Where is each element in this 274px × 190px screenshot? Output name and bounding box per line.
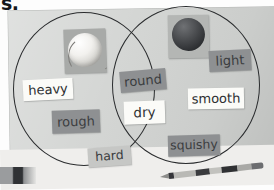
screenshot-root: s. heavy rough hard round dry light smoo… — [0, 0, 274, 190]
baseball-icon — [67, 32, 102, 67]
word-card-dry[interactable]: dry — [124, 100, 166, 124]
desk-edge — [0, 167, 36, 184]
word-card-round[interactable]: round — [119, 68, 167, 93]
dark-ball-icon — [172, 18, 206, 52]
word-card-hard[interactable]: hard — [87, 146, 131, 168]
word-card-squishy[interactable]: squishy — [168, 134, 221, 156]
word-card-rough[interactable]: rough — [52, 109, 101, 134]
picture-card-dark-ball[interactable] — [168, 15, 210, 59]
picture-card-baseball[interactable] — [63, 28, 107, 73]
word-card-smooth[interactable]: smooth — [188, 88, 244, 110]
word-card-light[interactable]: light — [208, 49, 251, 72]
word-card-heavy[interactable]: heavy — [22, 78, 73, 102]
